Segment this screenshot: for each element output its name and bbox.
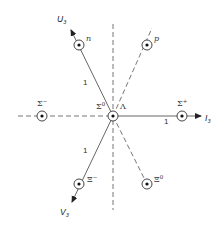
v-dashed-lower — [113, 116, 149, 188]
label-n: n — [86, 34, 91, 43]
axis-label-i3: I3 — [205, 113, 211, 124]
label-xi-zero: Ξ0 — [154, 174, 164, 184]
label-xi-minus: Ξ− — [87, 174, 98, 184]
particle-sigma-minus — [37, 111, 47, 121]
particle-sigma-plus — [177, 111, 187, 121]
particle-xi-minus — [74, 179, 84, 189]
label-lambda: Λ — [119, 102, 126, 111]
axis-label-u3: U3 — [57, 14, 67, 25]
unit-label-u3: 1 — [83, 78, 88, 87]
unit-label-v3: 1 — [83, 146, 88, 155]
particle-p — [142, 40, 152, 50]
unit-label-i3: 1 — [164, 117, 169, 126]
particle-xi-zero — [142, 179, 152, 189]
particle-n — [74, 40, 84, 50]
octet-diagram: 1 1 1 n p Σ− Σ0 Λ Σ+ Ξ− Ξ0 U3 V3 I3 — [0, 0, 223, 228]
axis-label-v3: V3 — [60, 207, 70, 218]
label-sigma-minus: Σ− — [37, 98, 48, 108]
particle-center — [108, 111, 118, 121]
label-p: p — [154, 34, 159, 43]
label-sigma-zero: Σ0 — [96, 101, 106, 111]
label-sigma-plus: Σ+ — [177, 98, 188, 108]
